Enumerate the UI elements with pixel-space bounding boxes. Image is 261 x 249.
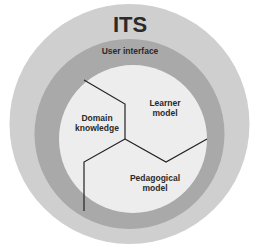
pedagogical-model-label-line1: Pedagogical <box>130 173 180 183</box>
learner-model-label-line1: Learner <box>149 98 181 108</box>
user-interface-label: User interface <box>102 46 159 56</box>
its-title: ITS <box>113 12 147 37</box>
pedagogical-model-label-line2: model <box>142 183 167 193</box>
domain-knowledge-label-line1: Domain <box>81 113 112 123</box>
inner-core <box>59 65 207 213</box>
its-architecture-diagram: ITS User interface Domain knowledge Lear… <box>0 0 261 249</box>
learner-model-label-line2: model <box>152 108 177 118</box>
domain-knowledge-label-line2: knowledge <box>75 123 119 133</box>
